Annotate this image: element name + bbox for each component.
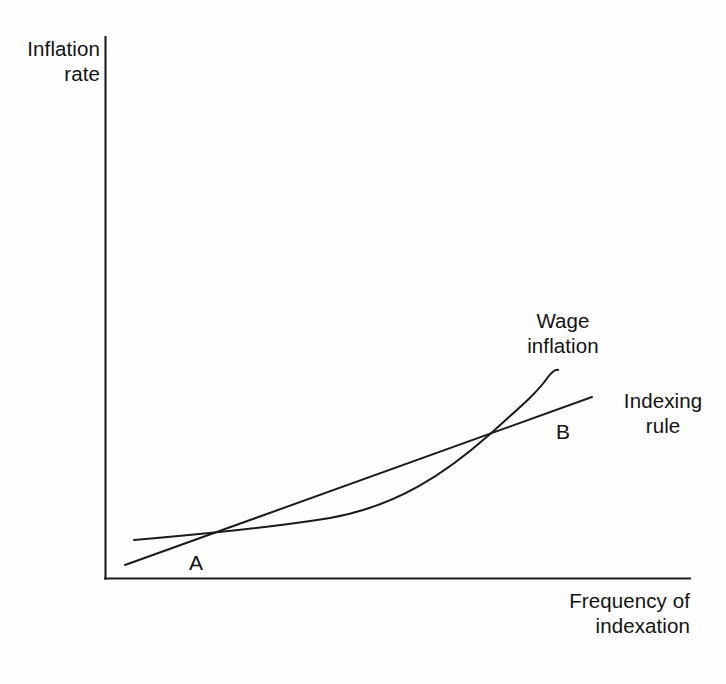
wage-inflation-label: Wage inflation: [498, 308, 628, 358]
point-b-label: B: [556, 421, 570, 442]
x-axis-label: Frequency of indexation: [390, 588, 690, 638]
figure-page: Inflation rate Frequency of indexation W…: [0, 0, 726, 684]
point-a-label: A: [189, 552, 203, 573]
y-axis-label: Inflation rate: [0, 36, 100, 86]
wage-inflation-curve: [134, 370, 558, 540]
indexing-rule-label: Indexing rule: [600, 388, 726, 438]
indexing-rule-line: [125, 397, 592, 565]
